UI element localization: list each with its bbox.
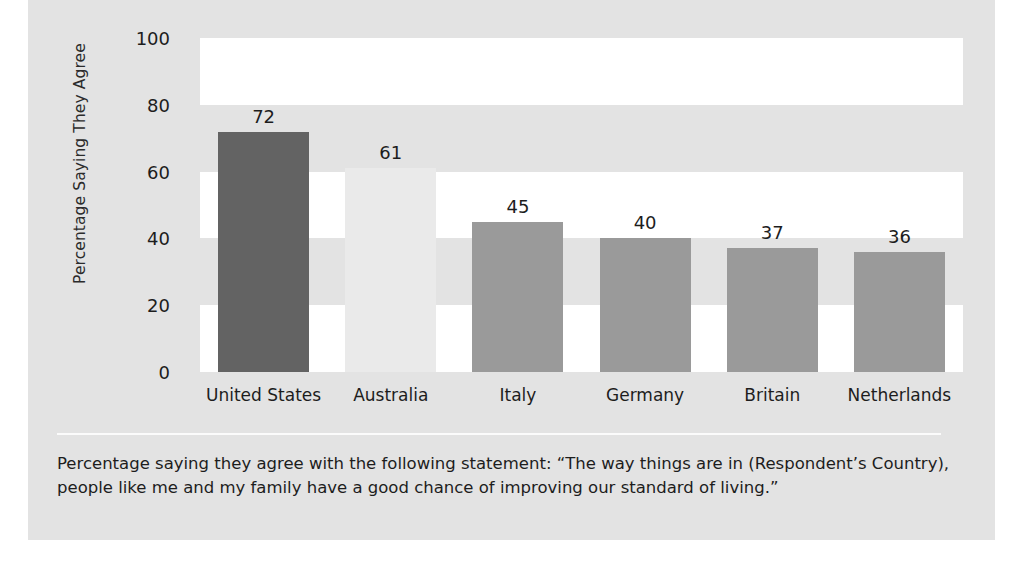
bar: [854, 252, 945, 372]
y-axis-tick-label: 60: [124, 161, 170, 182]
background-band: [200, 38, 963, 105]
bar: [345, 168, 436, 372]
bar: [472, 222, 563, 372]
y-axis-tick-label: 0: [124, 362, 170, 383]
y-axis-tick-label: 80: [124, 94, 170, 115]
y-axis-title: Percentage Saying They Agree: [71, 54, 89, 284]
chart-panel: Percentage Saying They Agree 10080604020…: [28, 0, 995, 540]
x-axis-category-label: Italy: [499, 385, 536, 405]
x-axis-category-label: Australia: [353, 385, 428, 405]
bar-value-label: 36: [888, 226, 911, 247]
bar-value-label: 40: [634, 212, 657, 233]
x-axis-category-label: Netherlands: [848, 385, 952, 405]
figure: Percentage Saying They Agree 10080604020…: [0, 0, 1010, 562]
y-axis-tick-label: 20: [124, 295, 170, 316]
chart-caption: Percentage saying they agree with the fo…: [57, 452, 952, 500]
x-axis-category-label: Germany: [606, 385, 684, 405]
bar-chart: Percentage Saying They Agree 10080604020…: [28, 0, 995, 425]
bar-value-label: 61: [379, 142, 402, 163]
x-axis-category-label: United States: [206, 385, 321, 405]
plot-area: 726145403736: [200, 38, 963, 372]
background-band: [200, 305, 963, 372]
bar: [727, 248, 818, 372]
y-axis-tick-labels: 100806040200: [124, 0, 170, 425]
caption-divider: [57, 433, 941, 435]
bar-value-label: 37: [761, 222, 784, 243]
x-axis-category-label: Britain: [744, 385, 800, 405]
y-axis-tick-label: 40: [124, 228, 170, 249]
bar: [218, 132, 309, 372]
bar: [600, 238, 691, 372]
background-band: [200, 172, 963, 239]
bar-value-label: 72: [252, 106, 275, 127]
background-band: [200, 238, 963, 305]
bar-value-label: 45: [506, 196, 529, 217]
background-band: [200, 105, 963, 172]
y-axis-tick-label: 100: [124, 28, 170, 49]
